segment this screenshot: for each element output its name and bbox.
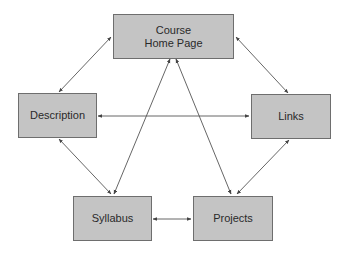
node-course-home-page-line1: Course [144, 24, 202, 37]
edge-course-syllabus [114, 59, 170, 194]
node-description: Description [18, 93, 97, 138]
node-description-label: Description [30, 109, 85, 122]
node-course-home-page-line2: Home Page [144, 37, 202, 50]
edge-description-syllabus [59, 139, 111, 194]
node-projects-label: Projects [213, 212, 253, 225]
edge-course-description [59, 37, 111, 92]
node-syllabus: Syllabus [73, 196, 152, 241]
node-syllabus-label: Syllabus [92, 212, 134, 225]
site-structure-diagram: Course Home Page Description Links Sylla… [0, 0, 344, 255]
node-links-label: Links [278, 110, 304, 123]
node-projects: Projects [193, 196, 273, 241]
edge-links-projects [237, 140, 289, 194]
node-links: Links [251, 94, 331, 139]
edge-course-projects [176, 59, 231, 194]
edge-course-links [236, 37, 288, 93]
node-course-home-page: Course Home Page [113, 14, 234, 59]
